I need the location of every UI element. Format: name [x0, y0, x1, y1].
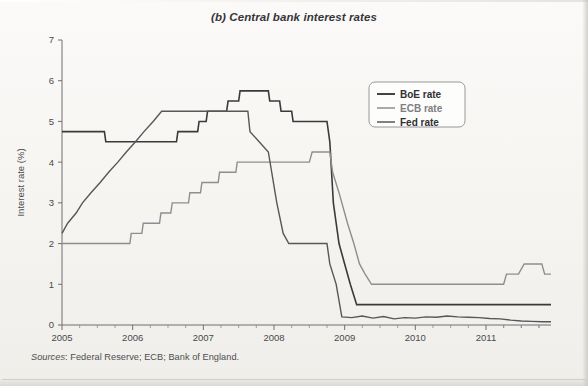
x-tick-label: 2006 — [122, 332, 143, 343]
x-tick-label: 2008 — [263, 332, 284, 343]
figure-panel: (b) Central bank interest rates 01234567… — [0, 0, 588, 386]
y-tick-label: 3 — [49, 197, 54, 208]
y-tick-label: 5 — [49, 116, 54, 127]
legend-label-fed-rate: Fed rate — [400, 117, 439, 128]
y-tick-label: 4 — [49, 157, 54, 168]
source-text: : Federal Reserve; ECB; Bank of England. — [65, 352, 239, 362]
legend-label-boe-rate: BoE rate — [400, 89, 442, 100]
x-tick-label: 2009 — [334, 332, 355, 343]
chart-legend: BoE rateECB rateFed rate — [369, 82, 465, 128]
chart-plot-area: 01234567Interest rate (%)200520062007200… — [0, 0, 588, 386]
series-layer — [62, 91, 551, 322]
source-label: Sources — [31, 352, 65, 362]
source-note: Sources: Federal Reserve; ECB; Bank of E… — [31, 352, 239, 362]
series-line-fed-rate — [62, 111, 551, 321]
series-line-boe-rate — [62, 91, 551, 305]
x-tick-label: 2005 — [51, 332, 72, 343]
y-tick-label: 0 — [49, 319, 54, 330]
y-tick-label: 6 — [49, 75, 54, 86]
page-right-edge — [582, 0, 588, 386]
x-tick-label: 2007 — [193, 332, 214, 343]
interest-rate-line-chart: 01234567Interest rate (%)200520062007200… — [0, 0, 588, 386]
y-tick-label: 2 — [49, 238, 54, 249]
x-tick-label: 2011 — [476, 332, 496, 343]
page-bottom-edge — [0, 378, 588, 386]
y-tick-label: 1 — [49, 279, 54, 290]
y-tick-label: 7 — [49, 34, 54, 45]
y-axis-title: Interest rate (%) — [15, 148, 26, 216]
legend-label-ecb-rate: ECB rate — [400, 103, 443, 114]
series-line-ecb-rate — [62, 152, 551, 284]
x-tick-label: 2010 — [405, 332, 426, 343]
